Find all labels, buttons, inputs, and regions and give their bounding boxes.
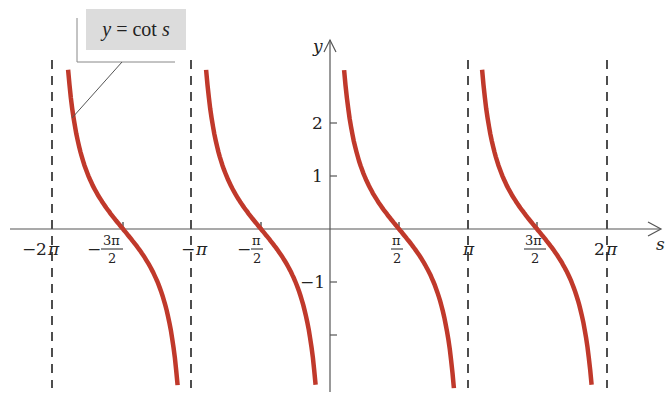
callout-leader-line — [72, 62, 122, 118]
svg-text:2: 2 — [594, 239, 605, 259]
x-tick-negpi: − π — [181, 239, 208, 259]
svg-text:2: 2 — [531, 251, 539, 266]
cot-branch — [482, 70, 591, 385]
svg-text:π: π — [252, 233, 261, 248]
x-tick-negpi2: − π 2 — [237, 233, 263, 266]
y-tick-1: 1 — [312, 166, 323, 186]
svg-text:π: π — [47, 239, 60, 259]
svg-text:2: 2 — [253, 251, 261, 266]
cot-branch — [206, 70, 316, 385]
label-equals: = — [111, 18, 132, 41]
x-axis-label: s — [656, 234, 665, 254]
cotangent-graph: y s 2 1 −1 − 2 π − 3π 2 − π − π 2 π 2 π … — [0, 0, 667, 407]
label-lhs: y — [102, 18, 111, 41]
svg-text:π: π — [605, 239, 618, 259]
svg-text:π: π — [392, 233, 401, 248]
y-tick-2: 2 — [312, 113, 323, 133]
y-axis-label: y — [312, 36, 323, 56]
svg-text:3π: 3π — [103, 233, 120, 248]
svg-text:−: − — [87, 239, 101, 259]
label-function: cot — [132, 18, 161, 41]
function-label: y = cot s — [86, 9, 186, 50]
svg-text:π: π — [462, 239, 475, 259]
svg-text:−: − — [181, 239, 195, 259]
cot-branch — [68, 70, 178, 385]
svg-text:π: π — [195, 239, 208, 259]
x-tick-neg3pi2: − 3π 2 — [87, 233, 123, 266]
x-tick-neg2pi: − 2 π — [22, 239, 60, 259]
svg-text:−: − — [237, 239, 251, 259]
y-tick-neg1: −1 — [300, 272, 325, 292]
svg-text:2: 2 — [393, 251, 401, 266]
label-variable: s — [162, 18, 170, 41]
x-tick-2pi: 2 π — [594, 239, 618, 259]
svg-text:2: 2 — [108, 251, 116, 266]
svg-text:−: − — [22, 239, 36, 259]
svg-text:3π: 3π — [525, 233, 542, 248]
x-tick-pi2: π 2 — [391, 233, 403, 266]
x-tick-pi: π — [462, 239, 475, 259]
svg-text:2: 2 — [36, 239, 47, 259]
